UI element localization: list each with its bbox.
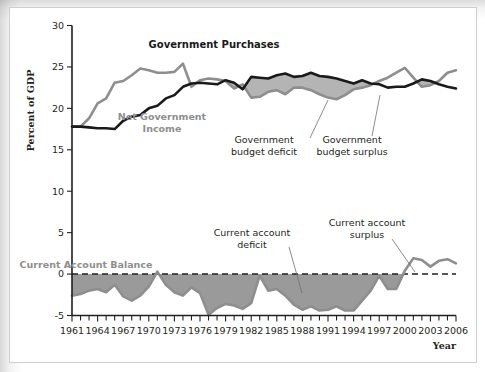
y-axis-tick-label: 25 bbox=[52, 61, 64, 72]
annotation-government-purchases: Government Purchases bbox=[149, 39, 280, 50]
annotation-current-account-deficit-line2: deficit bbox=[237, 239, 267, 250]
annotation-leader-line-government-budget-deficit bbox=[310, 100, 328, 138]
current-account-deficit-shading bbox=[72, 274, 156, 301]
x-axis-tick-label: 2000 bbox=[393, 325, 417, 336]
annotation-current-account-deficit: Current account bbox=[214, 227, 291, 238]
x-axis-tick-label: 1964 bbox=[86, 325, 110, 336]
y-axis-tick-label: -5 bbox=[55, 310, 64, 321]
annotation-government-budget-surplus: Government bbox=[322, 134, 382, 145]
x-axis-tick-label: 1961 bbox=[60, 325, 84, 336]
annotation-government-budget-surplus-line2: budget surplus bbox=[316, 146, 387, 157]
x-axis-tick-label: 1970 bbox=[137, 325, 161, 336]
x-axis-title: Year bbox=[432, 340, 457, 351]
x-axis-tick-label: 1988 bbox=[290, 325, 314, 336]
annotation-leader-line-government-budget-surplus bbox=[372, 95, 380, 136]
y-axis-tick-label: 5 bbox=[58, 227, 64, 238]
y-axis-tick-label: 30 bbox=[52, 20, 64, 31]
y-axis-title: Percent of GDP bbox=[25, 70, 36, 152]
y-axis-tick-label: 15 bbox=[52, 144, 64, 155]
x-axis-tick-label: 1973 bbox=[162, 325, 186, 336]
x-axis-tick-label: 1991 bbox=[316, 325, 340, 336]
chart-canvas: 302520151050-519611964196719701973197619… bbox=[0, 0, 485, 372]
annotation-current-account-surplus-line2: surplus bbox=[350, 229, 385, 240]
x-axis-tick-label: 1985 bbox=[265, 325, 289, 336]
chart-axes bbox=[72, 26, 456, 316]
y-axis-tick-label: 10 bbox=[52, 186, 64, 197]
x-axis-tick-label: 1982 bbox=[239, 325, 263, 336]
annotation-current-account-surplus: Current account bbox=[329, 217, 406, 228]
annotation-leader-line-current-account-surplus bbox=[392, 239, 415, 272]
annotation-government-budget-deficit: Government bbox=[234, 134, 294, 145]
x-axis-tick-label: 1997 bbox=[367, 325, 391, 336]
x-axis-tick-label: 2006 bbox=[444, 325, 468, 336]
x-axis-tick-label: 2003 bbox=[418, 325, 442, 336]
x-axis-tick-label: 1967 bbox=[111, 325, 135, 336]
annotation-government-budget-deficit-line2: budget deficit bbox=[231, 146, 297, 157]
x-axis-tick-label: 1994 bbox=[342, 325, 366, 336]
annotation-current-account-balance: Current Account Balance bbox=[20, 259, 153, 270]
y-axis-tick-label: 20 bbox=[52, 103, 64, 114]
y-axis-tick-label: 0 bbox=[58, 268, 64, 279]
x-axis-tick-label: 1976 bbox=[188, 325, 212, 336]
annotation-net-government-income-line2: Income bbox=[143, 123, 182, 134]
figure-chart-government-purchases-and-current-account: 302520151050-519611964196719701973197619… bbox=[0, 0, 485, 372]
x-axis-tick-label: 1979 bbox=[214, 325, 238, 336]
annotation-net-government-income: Net Government bbox=[118, 111, 207, 122]
